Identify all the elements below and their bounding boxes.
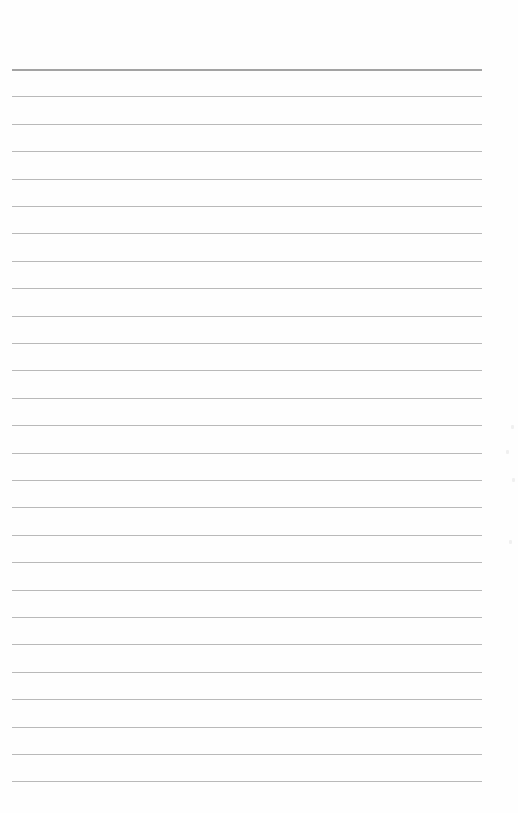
lined-paper-page	[0, 0, 518, 813]
ruled-line	[12, 398, 482, 399]
bleed-speck	[512, 478, 515, 482]
ruled-line	[12, 288, 482, 289]
ruled-line	[12, 316, 482, 317]
ruled-line	[12, 425, 482, 426]
bleed-speck	[511, 425, 514, 429]
ruled-line	[12, 69, 482, 71]
ruled-line	[12, 535, 482, 536]
ruled-line	[12, 179, 482, 180]
ruled-line	[12, 672, 482, 673]
ruled-line	[12, 151, 482, 152]
ruled-line	[12, 507, 482, 508]
ruled-line	[12, 590, 482, 591]
ruled-line	[12, 96, 482, 97]
ruled-line	[12, 644, 482, 645]
ruled-line	[12, 699, 482, 700]
ruled-line	[12, 370, 482, 371]
ruled-line	[12, 261, 482, 262]
bleed-speck	[506, 450, 509, 454]
ruled-line	[12, 617, 482, 618]
ruled-line	[12, 727, 482, 728]
bleed-speck	[509, 540, 512, 544]
ruled-line	[12, 562, 482, 563]
ruled-line	[12, 124, 482, 125]
ruled-line	[12, 781, 482, 782]
ruled-line	[12, 754, 482, 755]
ruled-line	[12, 480, 482, 481]
ruled-line	[12, 206, 482, 207]
ruled-line	[12, 233, 482, 234]
ruled-line	[12, 453, 482, 454]
ruled-line	[12, 343, 482, 344]
